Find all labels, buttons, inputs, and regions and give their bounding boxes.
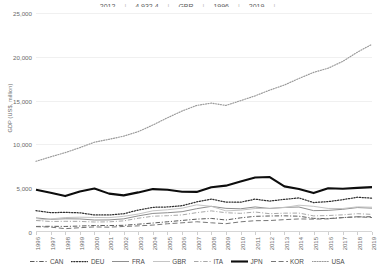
x-tick-mark [138,232,139,235]
legend-label: JPN [251,258,263,265]
y-tick-label: 20,000 [13,53,32,60]
series-line-jpn [36,177,372,196]
x-tick-mark [197,232,198,235]
legend-item-deu[interactable]: DEU [71,258,104,265]
header-separator: | [168,3,170,7]
header-item-4: 2019 [249,3,265,7]
x-tick-label: 2018 [357,237,363,250]
x-tick-label: 2017 [342,237,348,250]
x-tick-label: 2011 [255,237,261,250]
x-tick-mark [226,232,227,235]
chart-legend: CANDEUFRAGBRITAJPNKORUSA [0,258,375,265]
legend-label: GBR [172,258,186,265]
x-tick-mark [255,232,256,235]
x-tick-mark [372,232,373,235]
legend-swatch-deu-icon [71,259,88,264]
x-tick-label: 2004 [152,237,158,250]
x-tick-label: 2013 [284,237,290,250]
x-tick-mark [299,232,300,235]
x-tick-mark [36,232,37,235]
x-tick-label: 2010 [240,237,246,250]
legend-item-can[interactable]: CAN [30,258,63,265]
legend-swatch-kor-icon [271,259,288,264]
y-tick-label: 15,000 [13,97,32,104]
x-tick-label: 1996 [35,237,41,250]
legend-swatch-jpn-icon [231,259,248,264]
x-tick-mark [51,232,52,235]
series-lines [36,13,372,232]
legend-item-usa[interactable]: USA [312,258,345,265]
header-separator: | [124,3,126,7]
x-tick-mark [211,232,212,235]
legend-item-gbr[interactable]: GBR [153,258,186,265]
x-tick-label: 1997 [50,237,56,250]
legend-label: CAN [50,258,64,265]
x-tick-label: 2009 [225,237,231,250]
header-item-1: 4,932.4 [135,3,158,7]
x-tick-mark [314,232,315,235]
x-tick-label: 2015 [313,237,319,250]
clipped-header-strip: 2012 | 4,932.4 | GBR | 1996 | 2019 | [0,0,375,7]
legend-label: KOR [290,258,304,265]
x-tick-label: 2005 [167,237,173,250]
y-tick-label: 5,000 [17,185,32,192]
x-tick-mark [241,232,242,235]
x-tick-mark [270,232,271,235]
x-tick-mark [124,232,125,235]
legend-swatch-fra-icon [112,259,129,264]
x-tick-label: 2007 [196,237,202,250]
x-tick-label: 2006 [181,237,187,250]
x-tick-mark [109,232,110,235]
y-tick-label: 25,000 [13,10,32,17]
x-tick-label: 2012 [269,237,275,250]
y-tick-label: 10,000 [13,141,32,148]
series-line-ita [36,211,372,222]
legend-swatch-can-icon [30,259,47,264]
legend-item-ita[interactable]: ITA [194,258,223,265]
header-item-3: 1996 [213,3,229,7]
legend-swatch-gbr-icon [153,259,170,264]
header-separator: | [238,3,240,7]
plot-area: 05,00010,00015,00020,00025,000 199619971… [36,13,372,232]
legend-label: USA [331,258,344,265]
header-item-0: 2012 [100,3,116,7]
x-tick-mark [328,232,329,235]
x-tick-label: 2016 [328,237,334,250]
legend-label: ITA [214,258,223,265]
legend-label: FRA [132,258,145,265]
x-tick-mark [357,232,358,235]
x-tick-mark [153,232,154,235]
legend-item-jpn[interactable]: JPN [231,258,263,265]
legend-label: DEU [91,258,105,265]
legend-swatch-usa-icon [312,259,329,264]
legend-item-fra[interactable]: FRA [112,258,144,265]
y-tick-label: 0 [29,229,32,236]
x-tick-label: 2001 [108,237,114,250]
header-separator: | [203,3,205,7]
x-tick-mark [80,232,81,235]
x-tick-label: 2000 [94,237,100,250]
x-tick-mark [94,232,95,235]
x-tick-label: 1998 [65,237,71,250]
header-separator: | [273,3,275,7]
x-tick-label: 2002 [123,237,129,250]
x-tick-mark [182,232,183,235]
x-tick-mark [343,232,344,235]
x-tick-label: 2008 [211,237,217,250]
x-tick-mark [284,232,285,235]
x-tick-label: 2014 [298,237,304,250]
x-tick-label: 1999 [79,237,85,250]
header-item-2: GBR [178,3,193,7]
x-tick-label: 2019 [371,237,377,250]
x-tick-mark [167,232,168,235]
series-line-usa [36,44,372,161]
legend-swatch-ita-icon [194,259,211,264]
x-tick-label: 2003 [138,237,144,250]
legend-item-kor[interactable]: KOR [271,258,304,265]
x-tick-mark [65,232,66,235]
